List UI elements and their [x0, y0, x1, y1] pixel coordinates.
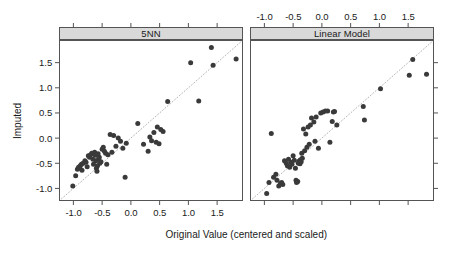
x-tick-label-top-3: 0.5 — [344, 11, 357, 22]
x-tick-label-bottom-5: 1.5 — [211, 207, 224, 218]
y-tick-label-0: -1.0 — [36, 183, 52, 194]
x-tick-label-bottom-2: 0.0 — [124, 207, 137, 218]
y-axis-title: Imputed — [12, 102, 23, 138]
x-axis-title: Original Value (centered and scaled) — [166, 229, 328, 240]
y-tick-label-1: -0.5 — [36, 158, 52, 169]
x-tick-label-top-4: 1.0 — [373, 11, 386, 22]
x-tick-label-top-0: -1.0 — [256, 11, 272, 22]
x-tick-label-top-2: 0.0 — [315, 11, 328, 22]
x-tick-label-bottom-0: -1.0 — [65, 207, 81, 218]
x-tick-label-bottom-1: -0.5 — [94, 207, 110, 218]
scatter-plot-figure: 5NN Linear Model Original Value (centere… — [0, 0, 456, 254]
x-tick-label-bottom-3: 0.5 — [153, 207, 166, 218]
y-tick-label-5: 1.5 — [39, 57, 52, 68]
x-tick-label-top-5: 1.5 — [402, 11, 415, 22]
x-tick-label-top-1: -0.5 — [285, 11, 301, 22]
x-tick-label-bottom-4: 1.0 — [182, 207, 195, 218]
y-tick-label-2: 0.0 — [39, 133, 52, 144]
y-tick-label-3: 0.5 — [39, 107, 52, 118]
y-tick-label-4: 1.0 — [39, 82, 52, 93]
